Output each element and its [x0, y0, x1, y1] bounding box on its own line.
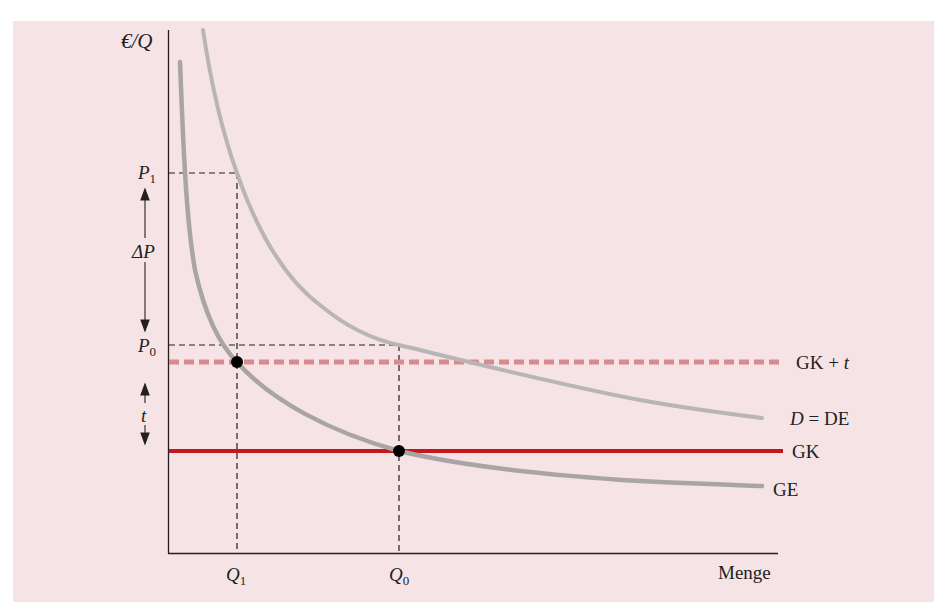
p0-label: P0	[138, 336, 156, 358]
p0-sub: 0	[150, 344, 157, 359]
point-q0-gk	[393, 445, 405, 457]
gk-plus-t-label: GK + t	[796, 353, 849, 372]
p0-base: P	[138, 335, 150, 356]
t-label: t	[141, 406, 146, 425]
demand-curve	[203, 30, 762, 418]
demand-label: D = DE	[790, 409, 849, 428]
q0-sub: 0	[403, 573, 410, 588]
q1-sub: 1	[240, 573, 247, 588]
q1-base: Q	[226, 564, 240, 585]
p1-label: P1	[138, 163, 156, 185]
q0-label: Q0	[389, 565, 409, 587]
gk-plus-t-t: t	[844, 352, 849, 373]
p1-sub: 1	[150, 171, 157, 186]
delta-p-label: ΔP	[132, 242, 155, 261]
ge-curve	[180, 62, 762, 486]
point-q1-gkt	[231, 356, 243, 368]
p1-base: P	[138, 162, 150, 183]
x-axis-label: Menge	[718, 563, 771, 582]
q0-base: Q	[389, 564, 403, 585]
y-axis-label: €/Q	[121, 31, 153, 52]
gk-label: GK	[792, 442, 819, 461]
ge-label: GE	[773, 480, 798, 499]
monopoly-tax-diagram	[0, 0, 947, 614]
q1-label: Q1	[226, 565, 246, 587]
